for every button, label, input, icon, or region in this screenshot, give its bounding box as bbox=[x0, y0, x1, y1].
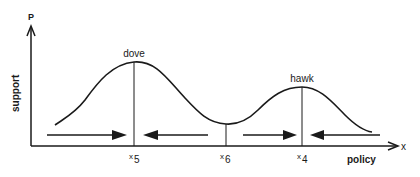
support-curve bbox=[55, 62, 372, 132]
x4-label: x 4 bbox=[297, 152, 308, 165]
y-axis-symbol: P bbox=[28, 12, 34, 22]
svg-text:x: x bbox=[297, 152, 301, 161]
svg-text:5: 5 bbox=[134, 154, 140, 165]
x5-label: x 5 bbox=[129, 152, 140, 165]
arrow-left-to-x5 bbox=[143, 130, 208, 140]
svg-text:x: x bbox=[220, 152, 224, 161]
x-axis-symbol: x bbox=[401, 141, 406, 152]
arrowhead-left-icon bbox=[310, 130, 324, 140]
bimodal-support-diagram: P support x policy dove hawk x 5 x 6 x 4 bbox=[0, 0, 420, 177]
arrow-right-to-x4 bbox=[243, 130, 297, 140]
arrow-right-to-x5 bbox=[47, 130, 127, 140]
arrowhead-right-icon bbox=[112, 130, 127, 140]
svg-text:4: 4 bbox=[302, 154, 308, 165]
y-axis-label: support bbox=[10, 74, 21, 112]
dove-label: dove bbox=[123, 48, 145, 59]
x-axis-label: policy bbox=[347, 154, 376, 165]
arrowhead-right-icon bbox=[283, 130, 297, 140]
svg-text:x: x bbox=[129, 152, 133, 161]
hawk-label: hawk bbox=[290, 73, 314, 84]
x6-label: x 6 bbox=[220, 152, 231, 165]
arrowhead-left-icon bbox=[143, 130, 158, 140]
svg-text:6: 6 bbox=[225, 154, 231, 165]
